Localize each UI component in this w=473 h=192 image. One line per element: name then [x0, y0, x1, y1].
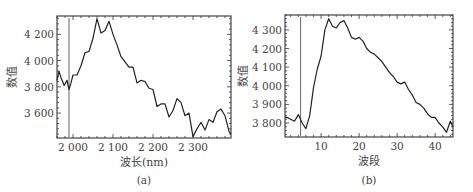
x-tick-label: 20 — [352, 140, 365, 152]
plot-frame — [57, 16, 231, 138]
x-axis-title: 波段 — [358, 154, 380, 168]
x-tick-label: 2 200 — [138, 141, 168, 153]
chart-b: 102030403 8003 9004 0004 1004 2004 300波段… — [237, 15, 453, 186]
x-tick-label: 10 — [314, 140, 327, 152]
chart-a: 2 0002 1002 2002 3003 6003 8004 0004 200… — [6, 16, 231, 186]
x-tick-label: 2 100 — [98, 141, 128, 153]
x-axis-title: 波长(nm) — [120, 156, 168, 169]
y-tick-label: 4 100 — [252, 61, 282, 73]
y-tick-label: 3 900 — [252, 98, 282, 110]
y-tick-label: 4 000 — [24, 55, 54, 67]
figure: 2 0002 1002 2002 3003 6003 8004 0004 200… — [0, 0, 473, 192]
x-tick-label: 40 — [428, 140, 441, 152]
y-tick-label: 3 800 — [24, 81, 54, 93]
data-series-line — [285, 19, 453, 133]
y-axis-title: 数值 — [6, 66, 19, 88]
y-tick-label: 3 800 — [252, 117, 282, 129]
x-tick-label: 2 000 — [58, 141, 88, 153]
y-axis-title: 数值 — [237, 65, 250, 87]
chart-caption: (b) — [362, 174, 377, 186]
x-tick-label: 30 — [390, 140, 403, 152]
plot-frame — [285, 15, 453, 137]
y-tick-label: 4 200 — [252, 43, 282, 55]
y-tick-label: 4 000 — [252, 80, 282, 92]
x-tick-label: 2 300 — [178, 141, 208, 153]
data-series-line — [57, 19, 231, 137]
y-tick-label: 4 200 — [24, 28, 54, 40]
chart-caption: (a) — [137, 174, 151, 186]
y-tick-label: 3 600 — [24, 107, 54, 119]
y-tick-label: 4 300 — [252, 24, 282, 36]
